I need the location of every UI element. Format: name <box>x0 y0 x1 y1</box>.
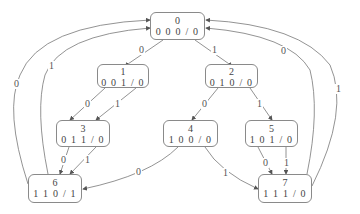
edge-label-1-3-b: 1 <box>114 99 121 109</box>
state-code: 1 0 0 / 0 <box>164 134 217 145</box>
edge-label-4-6: 0 <box>135 167 142 177</box>
state-node-0: 0 0 0 0 / 0 <box>150 12 205 40</box>
edge-label-6-0-inner: 1 <box>48 61 55 71</box>
edge-4-7 <box>205 147 258 189</box>
edge-label-4-7: 1 <box>222 168 229 178</box>
state-number: 0 <box>151 15 204 26</box>
state-node-2: 2 0 1 0 / 0 <box>205 64 258 88</box>
state-number: 1 <box>98 66 148 77</box>
edge-label-0-1: 0 <box>138 45 145 55</box>
state-code: 1 1 0 / 1 <box>29 188 81 199</box>
state-number: 7 <box>259 177 311 188</box>
state-diagram: 0 0 0 0 / 0 1 0 0 1 / 0 2 0 1 0 / 0 3 0 … <box>0 0 360 214</box>
edge-label-5-7-b: 1 <box>283 158 290 168</box>
state-number: 6 <box>29 177 81 188</box>
edge-4-6 <box>83 147 178 189</box>
state-node-1: 1 0 0 1 / 0 <box>97 64 149 88</box>
edge-label-3-6-a: 0 <box>60 155 67 165</box>
edge-label-2-5: 1 <box>256 99 263 109</box>
state-code: 0 0 0 / 0 <box>151 26 204 37</box>
edge-label-7-0-outer: 1 <box>335 84 342 94</box>
state-code: 0 0 1 / 0 <box>98 77 148 88</box>
edge-label-0-2: 1 <box>211 45 218 55</box>
state-node-5: 5 1 0 1 / 0 <box>245 120 298 147</box>
state-number: 2 <box>206 66 257 77</box>
state-code: 1 1 1 / 0 <box>259 188 311 199</box>
state-number: 4 <box>164 123 217 134</box>
state-code: 0 1 0 / 0 <box>206 77 257 88</box>
edge-3-6-b <box>70 147 96 174</box>
edge-label-3-6-b: 1 <box>84 155 91 165</box>
state-node-7: 7 1 1 1 / 0 <box>258 174 312 203</box>
state-node-4: 4 1 0 0 / 0 <box>163 120 218 147</box>
edge-6-0-outer <box>14 20 150 184</box>
state-code: 0 1 1 / 0 <box>57 134 109 145</box>
edge-6-0-inner <box>41 28 150 174</box>
edge-label-5-7-a: 0 <box>262 158 269 168</box>
state-number: 3 <box>57 123 109 134</box>
edge-label-1-3-a: 0 <box>84 99 91 109</box>
edge-label-7-0-inner: 0 <box>280 46 287 56</box>
state-number: 5 <box>246 123 297 134</box>
state-node-6: 6 1 1 0 / 1 <box>28 174 82 203</box>
edge-label-6-0-outer: 0 <box>13 79 20 89</box>
state-node-3: 3 0 1 1 / 0 <box>56 120 110 147</box>
edge-7-0-outer <box>206 20 337 186</box>
edge-label-2-4: 0 <box>201 99 208 109</box>
state-code: 1 0 1 / 0 <box>246 134 297 145</box>
